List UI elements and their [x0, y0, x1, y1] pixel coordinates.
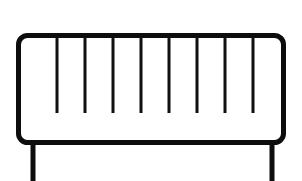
- background-rect: [0, 0, 302, 181]
- railing-drawing: [0, 0, 302, 181]
- image-canvas: Railing panel with eight balusters and t…: [0, 0, 302, 181]
